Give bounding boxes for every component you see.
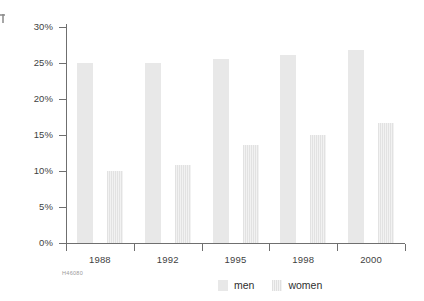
y-axis-tick — [59, 63, 66, 64]
bar-men-1998 — [280, 55, 296, 243]
bar-chart: 0%5%10%15%20%25%30% 19881992199519982000… — [0, 0, 424, 301]
x-axis-tick-label: 1988 — [70, 255, 130, 265]
chart-legend: menwomen — [218, 280, 322, 291]
legend-label-men: men — [234, 280, 254, 291]
y-axis-tick — [59, 171, 66, 172]
x-axis-tick-label: 1998 — [273, 255, 333, 265]
x-axis-line — [66, 243, 405, 244]
x-axis-tick — [202, 244, 203, 251]
source-code-label: H46080 — [62, 270, 83, 277]
y-axis-tick-label: 5% — [17, 202, 53, 212]
bar-women-1995 — [243, 145, 259, 243]
legend-item-men: men — [218, 280, 254, 291]
y-axis-tick — [59, 27, 66, 28]
legend-item-women: women — [272, 280, 322, 291]
x-axis-tick — [337, 244, 338, 251]
y-axis-tick-label: 30% — [17, 22, 53, 32]
y-axis-labels: 0%5%10%15%20%25%30% — [13, 0, 53, 301]
y-axis-tick-label: 25% — [17, 58, 53, 68]
y-axis-tick-label: 0% — [17, 238, 53, 248]
page-edge-mark-vertical — [2, 14, 4, 23]
x-axis-tick — [134, 244, 135, 251]
x-axis-tick-label: 1992 — [138, 255, 198, 265]
bar-women-1998 — [310, 135, 326, 243]
bar-men-1988 — [77, 63, 93, 243]
x-axis-tick — [66, 244, 67, 251]
legend-label-women: women — [288, 280, 322, 291]
x-axis-tick — [269, 244, 270, 251]
y-axis-tick — [59, 99, 66, 100]
bar-men-1992 — [145, 63, 161, 243]
bar-men-2000 — [348, 50, 364, 243]
legend-swatch-men — [218, 280, 228, 291]
x-axis-tick-label: 1995 — [206, 255, 266, 265]
y-axis-tick-label: 10% — [17, 166, 53, 176]
y-axis-tick — [59, 207, 66, 208]
bar-men-1995 — [213, 59, 229, 243]
y-axis-tick-label: 15% — [17, 130, 53, 140]
legend-swatch-women — [272, 280, 282, 291]
x-axis-tick — [405, 244, 406, 251]
x-axis-tick-label: 2000 — [341, 255, 401, 265]
y-axis-tick — [59, 135, 66, 136]
bars-layer — [66, 27, 405, 243]
bar-women-1988 — [107, 171, 123, 243]
y-axis-tick — [59, 243, 66, 244]
y-axis-tick-label: 20% — [17, 94, 53, 104]
bar-women-1992 — [175, 165, 191, 243]
bar-women-2000 — [378, 123, 394, 243]
